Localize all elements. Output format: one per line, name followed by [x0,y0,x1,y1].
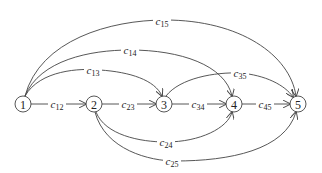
node-label: 4 [231,98,237,112]
node-5: 5 [290,96,306,112]
edge-label-1-2: c12 [48,98,66,112]
node-1: 1 [15,96,31,112]
node-4: 4 [226,96,242,112]
edge-label-1-3: c13 [84,64,102,78]
edge-label-1-5: c15 [153,15,171,29]
node-label: 2 [91,98,97,112]
node-label: 5 [295,98,301,112]
edge-2-5 [95,112,296,161]
edge-label-3-5: c35 [231,67,249,81]
edge-label-2-4: c24 [157,136,175,150]
node-label: 3 [161,98,167,112]
edge-label-4-5: c45 [256,98,274,112]
edge-1-5 [25,20,296,96]
edge-label-1-4: c14 [121,44,139,58]
edge-label-2-5: c25 [163,155,181,169]
network-diagram: c12c23c34c45c13c14c15c35c24c25 12345 [0,0,322,173]
edge-label-2-3: c23 [119,98,137,112]
node-3: 3 [156,96,172,112]
edge-label-3-4: c34 [189,98,207,112]
node-2: 2 [86,96,102,112]
edge-labels: c12c23c34c45c13c14c15c35c24c25 [48,15,274,169]
node-label: 1 [20,98,26,112]
edge-3-5 [166,73,293,97]
